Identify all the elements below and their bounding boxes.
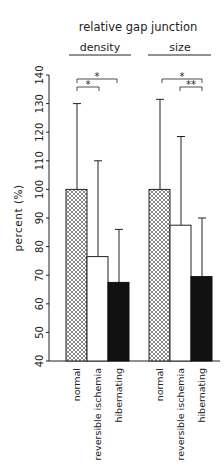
- x-label-normal-1: normal: [71, 368, 82, 401]
- y-tick-60: 60: [34, 297, 45, 310]
- group-label-density: density: [80, 41, 121, 54]
- y-tick-90: 90: [34, 212, 45, 225]
- bar-size-normal: [149, 189, 170, 361]
- x-label-rev-1: reversible ischemia: [92, 368, 103, 460]
- y-tick-100: 100: [34, 180, 45, 199]
- group-density: * *: [66, 71, 129, 361]
- sig-star-density-1: *: [95, 71, 100, 82]
- x-label-normal-2: normal: [154, 368, 165, 401]
- x-label-rev-2: reversible ischemia: [175, 368, 186, 460]
- sig-star-size-1: *: [180, 71, 185, 82]
- x-label-hib-2: hibernating: [196, 368, 207, 423]
- y-tick-70: 70: [34, 269, 45, 282]
- chart-title: relative gap junction: [79, 20, 197, 34]
- group-size: * **: [149, 71, 212, 361]
- sig-star-size-2: **: [186, 79, 196, 90]
- y-tick-140: 140: [34, 65, 45, 84]
- x-axis-labels: normal reversible ischemia hibernating n…: [71, 368, 207, 460]
- chart: relative gap junction density size 40 50…: [0, 0, 224, 471]
- sig-star-density-2: *: [86, 79, 91, 90]
- y-tick-130: 130: [34, 94, 45, 113]
- y-tick-80: 80: [34, 240, 45, 253]
- bar-size-reversible-ischemia: [170, 225, 191, 361]
- bar-density-hibernating: [108, 282, 129, 361]
- y-tick-110: 110: [34, 151, 45, 170]
- y-tick-120: 120: [34, 123, 45, 142]
- y-tick-40: 40: [34, 355, 45, 368]
- bar-density-reversible-ischemia: [87, 257, 108, 361]
- y-tick-50: 50: [34, 326, 45, 339]
- bar-size-hibernating: [191, 277, 212, 361]
- x-label-hib-1: hibernating: [113, 368, 124, 423]
- y-axis-label: percent (%): [12, 184, 24, 251]
- bar-density-normal: [66, 189, 87, 361]
- group-label-size: size: [169, 41, 191, 54]
